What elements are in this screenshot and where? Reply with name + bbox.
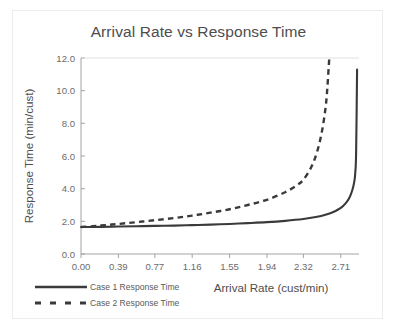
x-tick-label: 0.00 bbox=[72, 261, 91, 272]
legend: Case 1 Response Time Case 2 Response Tim… bbox=[35, 282, 180, 308]
x-axis-tick-labels: 0.000.390.771.161.551.942.322.71 bbox=[72, 261, 350, 272]
series-line-case-1 bbox=[81, 69, 357, 227]
x-tick-label: 2.71 bbox=[331, 261, 350, 272]
x-axis-title: Arrival Rate (cust/min) bbox=[214, 281, 329, 294]
y-tick-label: 2.0 bbox=[62, 216, 75, 227]
legend-label-case-1: Case 1 Response Time bbox=[90, 282, 180, 292]
chart-container: Arrival Rate vs Response Time 0.02.04.06… bbox=[12, 10, 383, 319]
y-tick-label: 8.0 bbox=[62, 118, 75, 129]
x-tick-label: 1.94 bbox=[258, 261, 277, 272]
y-tick-label: 12.0 bbox=[56, 53, 75, 64]
x-tick-label: 0.77 bbox=[145, 261, 164, 272]
x-tick-label: 0.39 bbox=[109, 261, 128, 272]
y-tick-label: 4.0 bbox=[62, 183, 75, 194]
series-line-case-2 bbox=[81, 58, 329, 227]
y-axis-tick-labels: 0.02.04.06.08.010.012.0 bbox=[56, 53, 75, 260]
x-tick-label: 1.16 bbox=[183, 261, 202, 272]
chart-plot-svg: 0.02.04.06.08.010.012.0 0.000.390.771.16… bbox=[13, 11, 384, 320]
x-tick-label: 1.55 bbox=[220, 261, 239, 272]
y-tick-label: 0.0 bbox=[62, 249, 75, 260]
y-tick-label: 10.0 bbox=[56, 85, 75, 96]
x-tick-label: 2.32 bbox=[294, 261, 313, 272]
y-axis-title: Response Time (min/cust) bbox=[22, 89, 35, 224]
axis-tick-marks bbox=[81, 58, 341, 258]
legend-label-case-2: Case 2 Response Time bbox=[90, 298, 180, 308]
y-tick-label: 6.0 bbox=[62, 151, 75, 162]
